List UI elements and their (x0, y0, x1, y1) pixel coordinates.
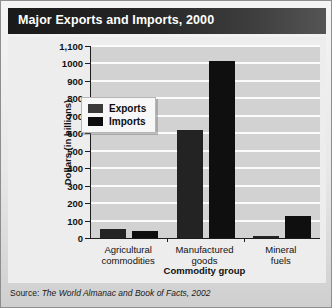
legend-label-exports: Exports (109, 103, 146, 114)
y-axis-tick-mark (85, 168, 90, 169)
y-axis-tick-label: 1,100 (37, 41, 83, 52)
bar-exports-1 (100, 229, 126, 238)
category-separator (167, 238, 168, 242)
gridline (91, 80, 320, 82)
y-axis-tick-mark (85, 151, 90, 152)
x-axis-category-label: Mineral fuels (243, 244, 319, 266)
source-line: Source: The World Almanac and Book of Fa… (10, 288, 211, 298)
gridline (91, 202, 320, 204)
y-axis-tick-label: 400 (37, 163, 83, 174)
bar-imports-2 (209, 61, 235, 238)
bar-imports-3 (285, 216, 311, 238)
x-axis-category-label: Manufactured goods (166, 244, 242, 266)
source-text: The World Almanac and Book of Facts, 200… (42, 288, 211, 298)
y-axis-tick-mark (85, 63, 90, 64)
gridline (91, 45, 320, 47)
legend-swatch-exports (88, 104, 103, 113)
gridline (91, 185, 320, 187)
plot-area (90, 46, 320, 239)
gridline (91, 150, 320, 152)
y-axis-tick-label: 800 (37, 93, 83, 104)
page-title: Major Exports and Imports, 2000 (18, 13, 214, 27)
legend-item: Imports (88, 115, 146, 128)
y-axis-tick-mark (85, 238, 90, 239)
y-axis-tick-label: 200 (37, 198, 83, 209)
gridline (91, 167, 320, 169)
y-axis-tick-label: 900 (37, 75, 83, 86)
y-axis-tick-label: 0 (37, 233, 83, 244)
legend-item: Exports (88, 102, 146, 115)
bar-exports-2 (177, 130, 203, 238)
y-axis-tick-mark (85, 81, 90, 82)
y-axis-tick-label: 300 (37, 180, 83, 191)
y-axis-tick-mark (85, 46, 90, 47)
chart-panel: Dollars (in billions) 010020030040050060… (8, 37, 326, 283)
category-separator (244, 238, 245, 242)
bar-imports-1 (132, 231, 158, 238)
source-label: Source: (10, 288, 39, 298)
x-axis-title: Commodity group (90, 265, 319, 276)
y-axis-tick-mark (85, 203, 90, 204)
y-axis-tick-label: 500 (37, 145, 83, 156)
chart-figure: Major Exports and Imports, 2000 Dollars … (0, 0, 332, 308)
y-axis-tick-mark (85, 133, 90, 134)
legend-swatch-imports (88, 117, 103, 126)
y-axis-tick-label: 600 (37, 128, 83, 139)
bar-exports-3 (253, 236, 279, 238)
y-axis-tick-mark (85, 186, 90, 187)
chart-legend: Exports Imports (81, 97, 156, 133)
chart-title-bar: Major Exports and Imports, 2000 (8, 8, 326, 34)
y-axis-tick-label: 700 (37, 110, 83, 121)
legend-label-imports: Imports (109, 116, 146, 127)
y-axis-tick-label: 1000 (37, 58, 83, 69)
y-axis-tick-label: 100 (37, 215, 83, 226)
y-axis-tick-mark (85, 221, 90, 222)
x-axis-category-label: Agricultural commodities (90, 244, 166, 266)
gridline (91, 62, 320, 64)
